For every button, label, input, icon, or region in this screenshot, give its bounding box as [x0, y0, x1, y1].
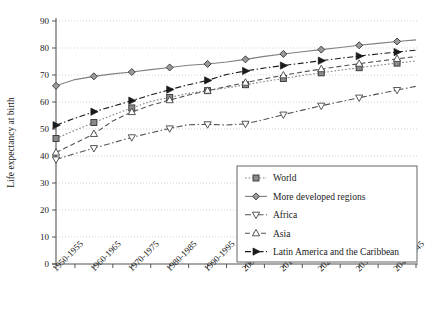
- y-tick-label: 10: [40, 232, 50, 242]
- y-tick-label: 50: [40, 124, 50, 134]
- y-tick-label: 40: [40, 151, 50, 161]
- y-axis-label: Life expectancy at birth: [6, 97, 16, 188]
- data-point: [53, 135, 59, 141]
- life-expectancy-line-chart: 0102030405060708090 1950-19551960-196519…: [0, 0, 438, 326]
- legend-label: Latin America and the Caribbean: [273, 247, 399, 257]
- legend-label: World: [273, 173, 297, 183]
- y-tick-label: 90: [40, 16, 50, 26]
- legend-label: Asia: [273, 229, 291, 239]
- y-tick-label: 30: [40, 178, 50, 188]
- y-tick-label: 20: [40, 205, 50, 215]
- y-tick-label: 0: [45, 259, 50, 269]
- y-tick-label: 80: [40, 43, 50, 53]
- y-tick-label: 70: [40, 70, 50, 80]
- data-point: [91, 120, 97, 126]
- chart-root: 0102030405060708090 1950-19551960-196519…: [0, 0, 438, 326]
- y-tick-label: 60: [40, 97, 50, 107]
- legend-label: More developed regions: [273, 192, 366, 202]
- chart-legend[interactable]: WorldMore developed regionsAfricaAsiaLat…: [237, 166, 417, 262]
- chart-background: [0, 0, 438, 326]
- legend-marker: [253, 175, 259, 181]
- legend-label: Africa: [273, 210, 298, 220]
